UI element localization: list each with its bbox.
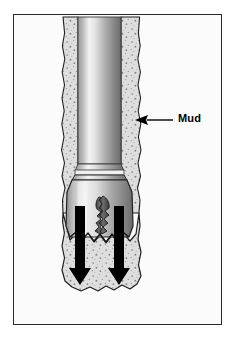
drill-pipe xyxy=(78,17,121,164)
mud-label: Mud xyxy=(178,112,201,124)
drill-bit-mud-circulation-diagram xyxy=(0,0,237,340)
figure-container: Mud xyxy=(0,0,237,340)
drill-collar xyxy=(72,175,127,180)
drill-collar-upper-band xyxy=(75,170,124,175)
